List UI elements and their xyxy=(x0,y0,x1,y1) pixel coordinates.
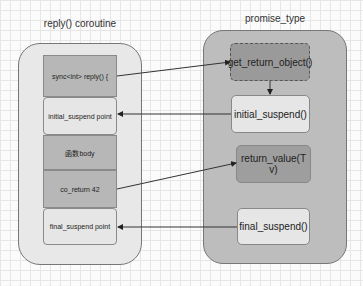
arrow-signature-to-get-return-object xyxy=(117,62,230,76)
connector-arrows xyxy=(0,0,363,286)
arrow-co-return-to-return-value xyxy=(117,163,236,189)
